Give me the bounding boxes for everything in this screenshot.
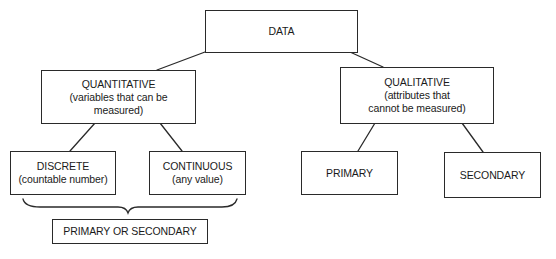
edge-qualitative-secondary [462, 123, 483, 152]
node-primary-or-secondary: PRIMARY OR SECONDARY [52, 219, 208, 244]
node-continuous: CONTINUOUS (any value) [149, 151, 246, 195]
node-data: DATA [205, 10, 358, 53]
edge-quantitative-continuous [160, 123, 182, 151]
node-qualitative-sub2: cannot be measured) [368, 102, 465, 115]
node-discrete-sub: (countable number) [18, 173, 107, 186]
node-primary-or-secondary-title: PRIMARY OR SECONDARY [63, 225, 196, 238]
node-quantitative-sub1: (variables that can be [69, 91, 167, 104]
node-primary: PRIMARY [301, 151, 398, 195]
node-qualitative-sub1: (attributes that [384, 89, 450, 102]
node-continuous-title: CONTINUOUS [163, 160, 233, 173]
node-qualitative-title: QUALITATIVE [384, 76, 450, 89]
node-discrete: DISCRETE (countable number) [10, 151, 116, 195]
node-quantitative: QUANTITATIVE (variables that can be meas… [41, 70, 196, 124]
node-quantitative-title: QUANTITATIVE [82, 78, 156, 91]
node-secondary-title: SECONDARY [460, 169, 525, 182]
node-primary-title: PRIMARY [326, 167, 373, 180]
node-qualitative: QUALITATIVE (attributes that cannot be m… [340, 67, 494, 124]
node-data-label: DATA [268, 25, 294, 38]
node-secondary: SECONDARY [444, 152, 541, 198]
node-quantitative-sub2: measured) [94, 104, 143, 117]
edge-data-qualitative [350, 52, 383, 67]
edge-quantitative-discrete [70, 123, 95, 151]
data-classification-diagram: DATA QUANTITATIVE (variables that can be… [0, 0, 556, 259]
edge-qualitative-primary [358, 123, 375, 151]
edge-data-quantitative [157, 52, 205, 70]
curly-brace [23, 199, 237, 213]
node-discrete-title: DISCRETE [37, 160, 89, 173]
node-continuous-sub: (any value) [172, 173, 223, 186]
